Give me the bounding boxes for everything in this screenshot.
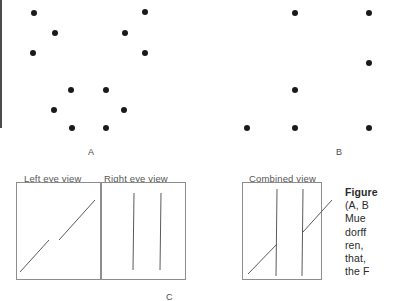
caption-line: the F [345, 265, 378, 278]
figure-page: A B Left eye view Right eye view C Combi… [0, 0, 394, 301]
caption-line: (A, B [345, 199, 378, 212]
caption-line: ren, [345, 239, 378, 252]
figure-caption: Figure(A, BMuedorffren,that,the F [345, 186, 378, 278]
combined-view-lines [0, 0, 394, 301]
combined-line [303, 200, 332, 232]
caption-line: dorff [345, 226, 378, 239]
caption-line: that, [345, 252, 378, 265]
caption-line: Mue [345, 212, 378, 225]
combined-line [276, 189, 277, 276]
caption-heading: Figure [345, 186, 378, 199]
combined-line [302, 189, 303, 276]
combined-line [248, 244, 277, 274]
